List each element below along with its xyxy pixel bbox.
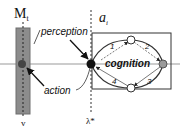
perception-label: perception — [40, 26, 88, 37]
environment-node — [18, 60, 26, 68]
agent-label: ai — [99, 10, 108, 27]
agent-node — [87, 60, 96, 69]
perception-connector-line — [34, 30, 40, 44]
step-label-4: 4 — [112, 77, 117, 86]
environment-bottom-label: v — [21, 118, 26, 128]
cognition-end-node — [159, 60, 167, 68]
cognition-top-node — [127, 36, 135, 44]
cognition-bottom-node — [127, 84, 135, 92]
environment-label: Mt — [14, 6, 29, 23]
cognition-label: cognition — [105, 58, 150, 69]
perception-arrow — [70, 40, 88, 59]
step-label-3: 3 — [147, 77, 152, 86]
action-label: action — [44, 85, 71, 96]
action-connector-curve — [76, 68, 90, 90]
diagram-canvas: Mt v ai λ* perception action cognition 1… — [0, 0, 180, 132]
agent-bottom-label: λ* — [86, 116, 95, 126]
step-label-2: 2 — [144, 42, 150, 51]
step-label-1: 1 — [110, 42, 114, 51]
